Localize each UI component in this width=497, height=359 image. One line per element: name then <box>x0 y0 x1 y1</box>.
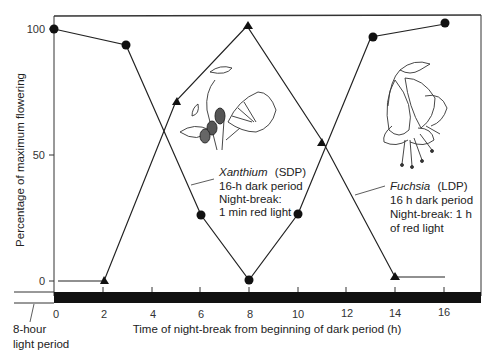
fuchsia-flower-illustration <box>384 62 447 169</box>
fuchsia-night-break: Night-break: 1 h <box>390 208 472 220</box>
fuchsia-point <box>317 138 326 146</box>
y-tick-0: 0 <box>39 275 45 287</box>
xanthium-point <box>369 33 378 42</box>
xanthium-point <box>197 211 206 220</box>
svg-text:4: 4 <box>150 308 156 320</box>
dark-period-bar <box>54 292 481 303</box>
svg-text:10: 10 <box>292 308 304 320</box>
x-ticks <box>103 287 444 292</box>
light-period-label-2: light period <box>13 338 69 350</box>
flowering-chart: 100 50 0 Percentage of maximum flowering… <box>0 0 497 359</box>
xanthium-point <box>122 41 131 50</box>
xanthium-dark-period: 16-h dark period <box>219 180 303 192</box>
fuchsia-type: (LDP) <box>437 180 467 192</box>
light-period-pointer <box>30 304 34 322</box>
fuchsia-point <box>100 276 109 284</box>
xanthium-type: (SDP) <box>275 166 306 178</box>
svg-text:16: 16 <box>438 306 450 318</box>
fuchsia-dark-period: 16 h dark period <box>390 194 473 206</box>
xanthium-species: Xanthium <box>218 166 268 178</box>
y-tick-50: 50 <box>33 149 45 161</box>
top-border <box>54 15 481 16</box>
y-ticks: 100 50 0 <box>27 23 54 287</box>
svg-text:2: 2 <box>101 308 107 320</box>
x-tick-labels: 0 2 4 6 8 10 12 14 16 <box>53 306 450 320</box>
fuchsia-point <box>172 97 181 105</box>
xanthium-point <box>245 276 254 285</box>
xanthium-point <box>294 210 303 219</box>
fuchsia-annotation: Fuchsia (LDP) <box>390 180 468 192</box>
xanthium-red-light: 1 min red light <box>219 206 292 218</box>
light-period-label-1: 8-hour <box>13 323 46 335</box>
fuchsia-annotation-pointer <box>355 186 385 195</box>
svg-text:14: 14 <box>389 307 401 319</box>
y-tick-100: 100 <box>27 23 45 35</box>
svg-text:12: 12 <box>341 307 353 319</box>
xanthium-plant-illustration <box>180 67 276 150</box>
svg-text:8: 8 <box>247 308 253 320</box>
series-xanthium <box>50 19 450 285</box>
xanthium-point <box>50 25 59 34</box>
x-axis-title: Time of night-break from beginning of da… <box>133 323 402 335</box>
svg-text:6: 6 <box>198 308 204 320</box>
xanthium-annotation-pointer <box>191 179 214 185</box>
fuchsia-red-light: of red light <box>390 222 445 234</box>
y-axis-title: Percentage of maximum flowering <box>14 73 26 247</box>
xanthium-point <box>441 19 450 28</box>
xanthium-annotation: Xanthium (SDP) <box>218 166 306 178</box>
fuchsia-species: Fuchsia <box>390 180 430 192</box>
fuchsia-point <box>390 272 400 280</box>
xanthium-night-break: Night-break: <box>219 193 282 205</box>
svg-text:0: 0 <box>53 308 59 320</box>
series-fuchsia <box>58 21 445 284</box>
fuchsia-point <box>243 21 253 29</box>
